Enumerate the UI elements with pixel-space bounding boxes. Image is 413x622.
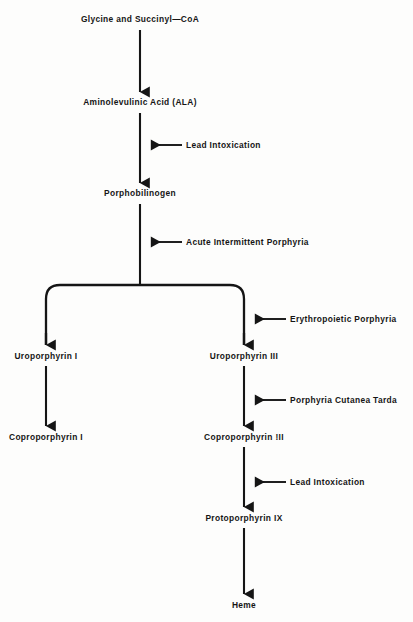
node-label-porphobilinogen: Porphobilinogen <box>104 189 176 197</box>
node-label-aminolevulinic-acid: Aminolevulinic Acid (ALA) <box>83 98 197 106</box>
annotation-label-acute-intermittent-porphyria: Acute Intermittent Porphyria <box>186 238 309 246</box>
annotation-label-lead-intoxication-upper: Lead Intoxication <box>186 141 261 149</box>
node-label-coproporphyrin-iii: Coproporphyrin !II <box>204 433 284 441</box>
annotation-label-lead-intoxication-lower: Lead Intoxication <box>290 478 365 486</box>
annotation-label-porphyria-cutanea-tarda: Porphyria Cutanea Tarda <box>290 396 397 404</box>
figure-canvas: Glycine and Succinyl—CoA Aminolevulinic … <box>0 0 413 622</box>
branch-bar <box>46 285 244 345</box>
node-label-glycine: Glycine and Succinyl—CoA <box>81 15 199 23</box>
annotation-label-erythropoietic-porphyria: Erythropoietic Porphyria <box>290 315 397 323</box>
node-label-uroporphyrin-iii: Uroporphyrin III <box>210 352 278 360</box>
node-label-heme: Heme <box>232 601 256 609</box>
node-label-uroporphyrin-i: Uroporphyrin I <box>14 352 77 360</box>
node-label-protoporphyrin-ix: Protoporphyrin IX <box>205 514 282 522</box>
pathway-diagram <box>0 0 413 622</box>
node-label-coproporphyrin-i: Coproporphyrin I <box>9 433 83 441</box>
